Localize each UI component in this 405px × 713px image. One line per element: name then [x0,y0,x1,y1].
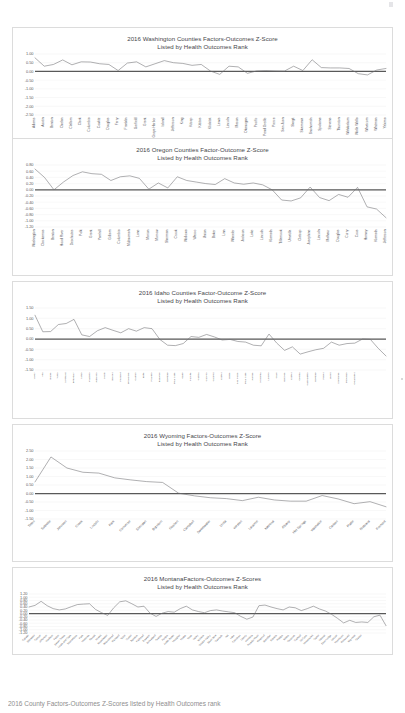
chart-title-washington: 2016 Washington Counties Factors-Outcome… [13,28,392,51]
chart-title-line1: 2016 Oregon Counties Factor-Outcome Z-Sc… [136,146,269,153]
x-axis-tick-label: Skagit [291,118,295,127]
x-axis-tick-label: Wallowa [184,230,188,243]
y-axis-tick: -2.00 [25,104,35,109]
x-axis-tick-label: Crook [174,230,178,239]
y-axis-tick: 0.20 [26,181,34,186]
x-axis-tick-label: Morrow [155,229,159,241]
x-axis-tick-label: Laramie [248,520,259,531]
x-axis-tick-label: Lincoln [260,230,264,241]
x-axis-tick-label: Lemhi [329,372,332,379]
x-axis-tick-label: Polk [79,230,83,237]
chart-title-line2: Listed by Health Outcomes Rank [13,440,392,448]
x-axis-tick-label: Wheeler [231,229,235,242]
y-axis-tick: -0.80 [25,212,35,217]
y-axis-tick: -1.50 [25,95,35,100]
y-axis-tick: 0.00 [26,69,34,74]
x-axis-tick-label: Cassia [197,372,200,380]
x-axis-tick-label: Linn [222,230,226,236]
series-line [35,457,386,507]
x-axis-tick-label: Crook [74,520,83,529]
x-axis-tick-label: Pierce [272,118,276,128]
x-axis-tick-label: Blaine [49,372,52,380]
x-axis-tick-label: Klamath [374,230,378,242]
y-axis-tick: 2.50 [26,449,34,454]
x-axis-tick-label: Snohomish [309,118,313,135]
y-axis-tick: 0.80 [26,163,34,168]
x-axis-tick-label: Grays Harbor [152,117,156,138]
y-axis-tick: -0.50 [25,500,35,505]
x-axis-tick-label: Benton [51,230,55,241]
chart-title-line2: Listed by Health Outcomes Rank [13,154,392,162]
y-axis-tick: -1.20 [25,225,35,230]
x-axis-tick-label: Sherman [165,230,169,244]
x-axis-tick-label: Fremont [375,520,387,532]
x-axis-tick-label: Bear Lake [244,372,247,384]
x-axis-tick-label: Walla Walla [355,118,359,136]
x-axis-tick-label: Carbon [328,520,339,531]
x-axis-tick-label: Sublette [40,520,52,532]
plot-area-wyoming: 2.502.001.501.000.500.00-0.50-1.00-1.50T… [13,448,392,563]
y-axis-tick: 2.00 [26,457,34,462]
y-axis-tick: -0.40 [25,200,35,205]
x-axis-tick-label: Fremont [119,373,122,383]
y-axis-tick: -0.50 [25,347,35,352]
x-axis-tick-label: Oneida [298,372,301,381]
document-page: 2016 Washington Counties Factors-Outcome… [0,0,405,713]
x-axis-tick-label: Franklin [124,118,128,130]
y-axis-tick: 0.40 [26,175,34,180]
x-axis-tick-label: Umatilla [288,230,292,242]
x-axis-tick-label: Cowlitz [97,118,101,129]
y-axis-tick: -1.50 [25,368,35,373]
y-axis-tick: 1.00 [26,52,34,57]
chart-card-oregon: 2016 Oregon Counties Factor-Outcome Z-Sc… [12,138,393,276]
y-axis-tick: 1.50 [26,466,34,471]
x-axis-tick-label: Skamania [300,118,304,133]
x-axis-tick-label: Jerome [251,372,254,381]
x-axis-tick-label: Coos [355,230,359,238]
x-axis-tick-label: Owyhee [283,372,286,382]
x-axis-tick-label: Clearwater [353,373,356,385]
x-axis-tick-label: Campbell [182,520,195,533]
y-axis-tick: -0.50 [25,78,35,83]
series-line [35,169,386,218]
x-axis-tick-label: Spokane [318,118,322,131]
x-axis-tick-label: Clackamas [41,230,45,247]
x-axis-tick-label: Pend Oreille [263,118,267,137]
y-axis-tick: -1.00 [25,219,35,224]
x-axis-tick-label: Boise [228,372,231,379]
x-axis-tick-label: Harney [364,230,368,241]
x-axis-tick-label: Lake [250,230,254,237]
x-axis-tick-label: Yamhill [98,230,102,241]
x-axis-tick-label: Johnson [56,520,68,532]
x-axis-tick-label: Lewis [217,118,221,127]
x-axis-tick-label: Jefferson [171,118,175,132]
x-axis-tick-label: Natrona [264,520,275,531]
x-axis-tick-label: San Juan [281,118,285,132]
x-axis-tick-label: Bonneville [127,372,130,384]
x-axis-tick-label: Shoshone [337,372,340,384]
x-axis-tick-label: Camas [134,372,137,381]
x-axis-tick-label: Franklin [150,372,153,382]
x-axis-tick-label: Columbia [87,118,91,132]
chart-title-line1: 2016 Washington Counties Factors-Outcome… [127,35,278,42]
y-axis-tick: 1.00 [26,316,34,321]
x-axis-tick-label: Gooding [314,372,317,382]
x-axis-tick-label: Weston [232,520,243,531]
x-axis-tick-label: Klamath [269,230,273,242]
x-axis-tick-label: Whitman [374,118,378,131]
x-axis-tick-label: Nez Perce [236,372,239,384]
y-axis-tick: 0.00 [26,491,34,496]
y-axis-tick: 0.50 [26,483,34,488]
x-axis-tick-label: Union [203,230,207,239]
x-axis-tick-label: Big Horn [151,520,163,532]
x-axis-tick-label: Power [322,373,325,380]
x-axis-tick-label: Jefferson [383,230,387,244]
x-axis-tick-label: King [180,118,184,125]
x-axis-tick-label: Baker [212,229,216,239]
page-edge-mark [401,378,403,380]
x-axis-tick-label: Payette [189,372,192,381]
x-axis-tick-label: Whatcom [365,118,369,132]
x-axis-tick-label: Kittitas [198,118,202,128]
x-axis-tick-label: Kootenai [64,372,67,382]
y-axis-tick: -0.20 [25,194,35,199]
